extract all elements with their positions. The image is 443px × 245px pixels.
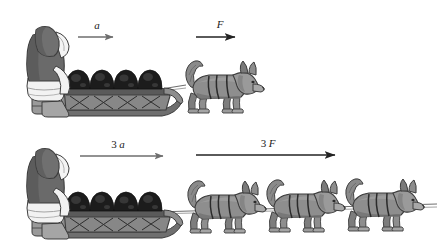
force-arrow-label: F	[216, 18, 224, 30]
acceleration-arrow: a	[78, 19, 113, 37]
acceleration-arrow-label: a	[94, 19, 100, 31]
sled-dog	[346, 179, 424, 231]
physics-figure: a F	[0, 0, 443, 245]
force-arrow-label: 3F	[261, 137, 276, 149]
force-label-number: 3	[261, 137, 267, 149]
sled-dog	[188, 181, 266, 233]
one-dog-panel: a F	[27, 18, 265, 117]
sled	[58, 70, 183, 116]
sled-dog	[186, 61, 264, 113]
acceleration-arrow: 3a	[80, 138, 163, 156]
sled	[58, 192, 183, 238]
musher	[27, 26, 70, 117]
illustration-canvas: a F	[0, 0, 443, 245]
force-label-symbol: F	[216, 18, 224, 30]
acceleration-label-symbol: a	[94, 19, 100, 31]
three-dog-panel: 3a 3F	[27, 137, 437, 239]
force-arrow: 3F	[196, 137, 335, 155]
sled-dog	[267, 180, 345, 232]
acceleration-arrow-label: 3a	[111, 138, 125, 150]
force-label-symbol: F	[268, 137, 276, 149]
acceleration-label-number: 3	[111, 138, 117, 150]
acceleration-label-symbol: a	[119, 138, 125, 150]
force-arrow: F	[196, 18, 235, 37]
musher	[27, 148, 70, 239]
